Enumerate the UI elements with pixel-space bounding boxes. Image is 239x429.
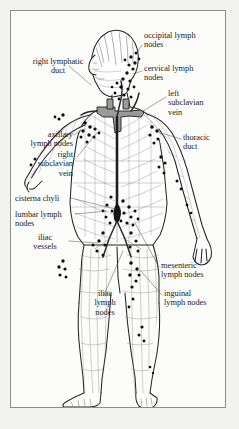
label-lumbar-lymph-nodes: lumbar lymph nodes: [11, 210, 77, 229]
label-mesenteric-lymph-nodes: mesenteric lymph nodes: [161, 261, 204, 280]
label-left-subclavian-vein: left subclavian vein: [168, 89, 203, 117]
label-iliac-vessels: iliac vessels: [23, 233, 67, 252]
label-axillary-lymph-nodes: axillary lymph nodes: [11, 130, 73, 149]
label-thoracic-duct: thoracic duct: [183, 133, 210, 152]
label-iliac-lymph-nodes: iliac lymph nodes: [83, 289, 127, 317]
label-right-lymphatic-duct: right lymphatic duct: [21, 57, 95, 76]
label-occipital-lymph-nodes: occipital lymph nodes: [144, 31, 196, 50]
label-right-subclavian-vein: right subclavian vein: [11, 150, 73, 178]
label-cisterna-chyli: cisterna chyli: [11, 194, 73, 203]
figure-frame: .body-outline{fill:#ffffff;stroke:#24242…: [10, 10, 226, 408]
label-cervical-lymph-nodes: cervical lymph nodes: [144, 64, 193, 83]
label-inguinal-lymph-nodes: inguinal lymph nodes: [164, 289, 207, 308]
